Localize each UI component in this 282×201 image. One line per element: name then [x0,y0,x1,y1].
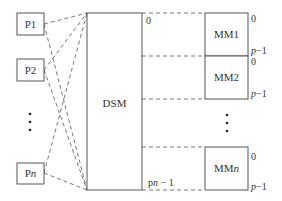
processor-ellipsis [29,113,32,132]
mmn-end: p−1 [250,181,267,192]
mm1-label: MM1 [214,28,239,40]
dsm-start-address: 0 [146,15,151,26]
processor-p1-label: P1 [25,18,37,30]
processor-p2-label: P2 [25,64,37,76]
mm2-label: MM2 [214,71,239,83]
dsm-label: DSM [103,97,127,109]
dsm-diagram: P1 P2 Pn DSM 0 pn − 1 MM1 0 p−1 MM2 0 p−… [0,0,282,201]
mmn-label: MMn [214,162,240,174]
processor-pn: Pn [17,163,44,184]
mm1-start: 0 [251,13,256,24]
dsm-block: DSM [87,13,142,190]
processor-pn-label: Pn [25,167,37,179]
memory-mapping-lines [142,13,205,190]
dsm-end-address: pn − 1 [148,177,174,188]
memory-ellipsis [226,114,229,133]
processor-connections [44,13,87,190]
processor-p2: P2 [17,59,44,81]
mmn-start: 0 [251,151,256,162]
processor-p1: P1 [17,13,44,35]
mm1-end: p−1 [250,45,267,56]
memory-module-mm1: MM1 [205,13,248,56]
memory-module-mm2: MM2 [205,56,248,99]
mm2-start: 0 [251,56,256,67]
memory-module-mmn: MMn [205,147,248,190]
mm2-end: p−1 [250,88,267,99]
